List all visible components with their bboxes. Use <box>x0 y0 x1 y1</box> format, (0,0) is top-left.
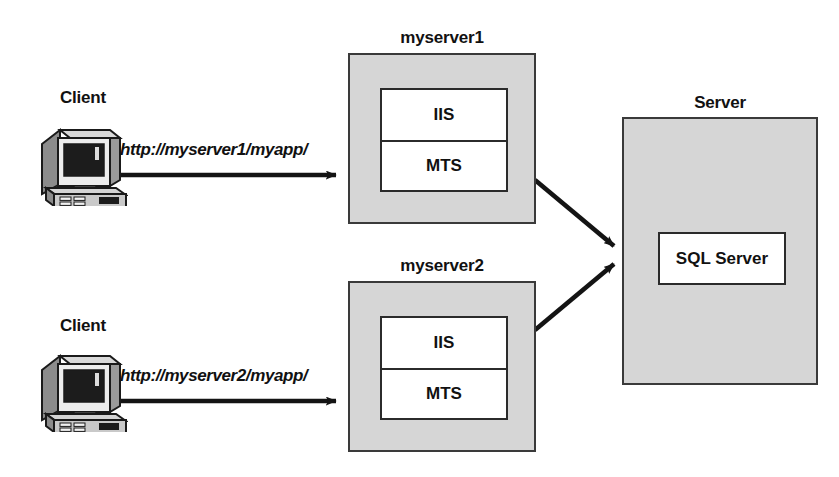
myserver1-label: myserver1 <box>348 28 536 48</box>
request-url-label-top: http://myserver1/myapp/ <box>120 140 307 160</box>
myserver1-component-mts[interactable]: MTS <box>382 140 506 190</box>
diagram-canvas: Client http://myserver1/myapp/ Client <box>0 0 839 477</box>
server-label: Server <box>622 93 818 113</box>
server-box[interactable]: SQL Server <box>622 117 818 385</box>
myserver2-box[interactable]: IIS MTS <box>348 281 536 452</box>
client-bottom-label: Client <box>40 316 126 336</box>
connector-myserver2-to-server <box>535 264 614 330</box>
myserver2-stack: IIS MTS <box>380 316 508 420</box>
myserver2-mts-label: MTS <box>426 384 462 404</box>
myserver1-iis-label: IIS <box>434 105 455 125</box>
myserver2-label: myserver2 <box>348 256 536 276</box>
sql-server-component[interactable]: SQL Server <box>658 232 786 285</box>
request-url-label-bottom: http://myserver2/myapp/ <box>120 366 307 386</box>
desktop-computer-icon <box>36 118 128 206</box>
client-top-label: Client <box>40 88 126 108</box>
myserver1-stack: IIS MTS <box>380 88 508 192</box>
sql-server-label: SQL Server <box>676 249 768 269</box>
desktop-computer-icon <box>36 344 128 432</box>
myserver2-component-mts[interactable]: MTS <box>382 368 506 418</box>
myserver2-iis-label: IIS <box>434 333 455 353</box>
myserver1-component-iis[interactable]: IIS <box>382 90 506 140</box>
myserver2-component-iis[interactable]: IIS <box>382 318 506 368</box>
myserver1-box[interactable]: IIS MTS <box>348 53 536 224</box>
connector-myserver1-to-server <box>535 180 614 246</box>
myserver1-mts-label: MTS <box>426 156 462 176</box>
